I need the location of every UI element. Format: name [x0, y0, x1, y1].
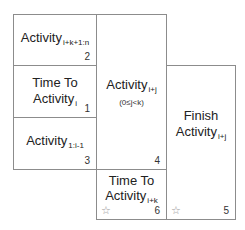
- star-icon: ☆: [171, 204, 181, 217]
- cell-label-line1: Finish: [167, 108, 235, 124]
- cell-time-to-activity-i-k: Time To Activityi+k ☆ 6: [96, 169, 167, 220]
- label-subscript: 1:i-1: [68, 141, 84, 150]
- cell-label: Activity1:i-1: [14, 133, 96, 154]
- label-main: Activity: [26, 133, 67, 148]
- label-main: Activity: [106, 77, 147, 92]
- cell-label-line1: Time To: [14, 75, 96, 91]
- cell-label: Activityi+j: [167, 124, 235, 145]
- cell-activity-remaining: Activityi+k+1:n 2: [13, 14, 97, 66]
- cell-number: 6: [154, 205, 160, 216]
- cell-note: (0≤j<k): [97, 98, 166, 107]
- label-subscript: i+j: [148, 85, 156, 94]
- label-subscript: i+j: [218, 132, 226, 141]
- cell-label: Activityi+j: [97, 77, 166, 98]
- cell-label-line1: Time To: [97, 173, 166, 189]
- cell-number: 2: [84, 51, 90, 62]
- label-subscript: i+k: [147, 196, 157, 205]
- cell-number: 4: [154, 155, 160, 166]
- label-subscript: i+k+1:n: [63, 38, 89, 47]
- cell-activity-previous: Activity1:i-1 3: [13, 117, 97, 170]
- cell-finish-activity: Finish Activityi+j ☆ 5: [166, 65, 236, 220]
- label-main: Activity: [21, 30, 62, 45]
- label-main: Activity: [105, 188, 146, 203]
- cell-label: Activityi+k+1:n: [14, 30, 96, 51]
- label-main: Activity: [176, 124, 217, 139]
- star-icon: ☆: [101, 204, 111, 217]
- cell-time-to-activity-i: Time To Activityi 1: [13, 65, 97, 118]
- cell-activity-current: Activityi+j (0≤j<k) 4: [96, 14, 167, 170]
- cell-number: 5: [223, 205, 229, 216]
- label-main: Activity: [33, 91, 74, 106]
- cell-number: 3: [84, 155, 90, 166]
- label-subscript: i: [75, 99, 77, 108]
- cell-number: 1: [84, 103, 90, 114]
